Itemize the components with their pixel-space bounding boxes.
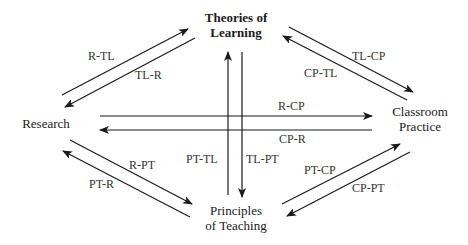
label-cp-r: CP-R [279,133,306,146]
arrow-r-pt [70,140,192,204]
node-classroom-practice: Classroom Practice [378,104,462,134]
teaching-relationships-diagram: Theories of Learning Research Classroom … [0,0,468,245]
node-classroom-line1: Classroom [378,104,462,119]
arrow-pt-r [63,151,190,217]
label-tl-cp: TL-CP [352,50,385,63]
node-theories-line1: Theories of [186,10,286,25]
node-principles-line2: of Teaching [188,218,284,233]
node-principles-of-teaching: Principles of Teaching [188,203,284,233]
label-r-tl: R-TL [88,50,115,63]
label-cp-tl: CP-TL [304,67,337,80]
arrow-r-tl [62,29,188,95]
node-principles-line1: Principles [188,203,284,218]
node-research: Research [14,116,78,131]
arrow-tl-r [65,38,195,107]
label-r-pt: R-PT [129,159,155,172]
label-pt-r: PT-R [89,178,114,191]
node-theories-line2: Learning [186,25,286,40]
label-pt-tl: PT-TL [186,153,218,166]
label-tl-r: TL-R [135,69,162,82]
label-pt-cp: PT-CP [304,164,336,177]
node-theories-of-learning: Theories of Learning [186,10,286,40]
node-classroom-line2: Practice [378,119,462,134]
arrow-cp-pt [287,152,410,216]
arrow-tl-cp [289,27,413,92]
label-tl-pt: TL-PT [246,153,279,166]
arrow-cp-tl [283,36,407,100]
label-cp-pt: CP-PT [352,182,385,195]
node-research-label: Research [14,116,78,131]
arrow-pt-cp [282,144,400,204]
label-r-cp: R-CP [278,100,305,113]
